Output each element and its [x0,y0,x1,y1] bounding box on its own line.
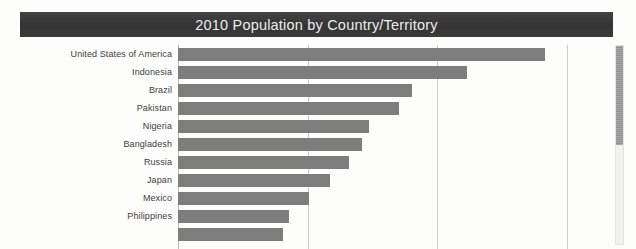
category-label: Mexico [20,189,178,207]
chart-title-bar: 2010 Population by Country/Territory [20,12,613,37]
bar[interactable] [178,84,412,97]
category-label: Philippines [20,207,178,225]
chart-row: Bangladesh [20,135,593,153]
vertical-scrollbar-thumb[interactable] [616,46,623,145]
chart-row: Mexico [20,189,593,207]
category-label: Nigeria [20,117,178,135]
chart-row: United States of America [20,45,593,63]
category-label: Russia [20,153,178,171]
bar[interactable] [178,210,289,223]
chart-row: Russia [20,153,593,171]
chart-row: Pakistan [20,99,593,117]
chart-row: Japan [20,171,593,189]
bar-track [178,189,593,207]
bar-track [178,171,593,189]
bar[interactable] [178,66,467,79]
bar-track [178,63,593,81]
chart-row [20,225,593,243]
bar-track [178,153,593,171]
bar[interactable] [178,228,283,241]
bar[interactable] [178,138,362,151]
bar[interactable] [178,192,309,205]
category-label: Bangladesh [20,135,178,153]
category-label: Brazil [20,81,178,99]
chart-row: Philippines [20,207,593,225]
bar[interactable] [178,102,399,115]
bar-track [178,81,593,99]
bar-track [178,45,593,63]
chart-row: Indonesia [20,63,593,81]
category-label: Indonesia [20,63,178,81]
bar-track [178,99,593,117]
category-label: Pakistan [20,99,178,117]
bar-track [178,135,593,153]
bar-track [178,207,593,225]
bar-track [178,117,593,135]
chart-plot-area: United States of AmericaIndonesiaBrazilP… [20,45,593,249]
population-bar-chart-widget: 2010 Population by Country/Territory Uni… [0,0,636,249]
chart-title: 2010 Population by Country/Territory [195,17,438,33]
bar[interactable] [178,48,545,61]
bar[interactable] [178,120,369,133]
bar-track [178,225,593,243]
category-label: Japan [20,171,178,189]
vertical-scrollbar[interactable] [615,45,624,245]
chart-row: Nigeria [20,117,593,135]
bar[interactable] [178,174,330,187]
chart-rows: United States of AmericaIndonesiaBrazilP… [20,45,593,243]
bar[interactable] [178,156,349,169]
category-label: United States of America [20,45,178,63]
chart-row: Brazil [20,81,593,99]
